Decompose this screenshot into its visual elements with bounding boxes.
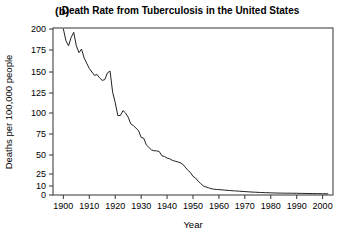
y-tick-label: 125 (31, 88, 46, 98)
y-axis-ticks: 010255075100125150175200 (31, 24, 53, 200)
x-tick-label: 1990 (287, 201, 307, 211)
x-tick-label: 2000 (313, 201, 333, 211)
y-tick-label: 150 (31, 67, 46, 77)
tuberculosis-death-rate-line-chart: 010255075100125150175200 190019101920193… (0, 0, 343, 240)
y-axis-title: Deaths per 100,000 people (3, 55, 14, 170)
x-tick-label: 1930 (131, 201, 151, 211)
x-tick-label: 1940 (157, 201, 177, 211)
plot-frame (53, 28, 333, 195)
x-tick-label: 1900 (53, 201, 73, 211)
y-tick-label: 175 (31, 45, 46, 55)
data-series-line (63, 29, 327, 194)
x-tick-label: 1960 (209, 201, 229, 211)
y-tick-label: 0 (41, 190, 46, 200)
figure-panel: (b) Death Rate from Tuberculosis in the … (0, 0, 343, 240)
x-axis-title: Year (183, 219, 202, 230)
y-tick-label: 25 (36, 169, 46, 179)
x-axis-ticks: 1900191019201930194019501960197019801990… (53, 195, 332, 211)
x-tick-label: 1970 (235, 201, 255, 211)
x-tick-label: 1950 (183, 201, 203, 211)
x-tick-label: 1920 (105, 201, 125, 211)
y-tick-label: 10 (36, 181, 46, 191)
y-tick-label: 200 (31, 24, 46, 34)
y-tick-label: 100 (31, 108, 46, 118)
x-tick-label: 1910 (79, 201, 99, 211)
y-tick-label: 50 (36, 150, 46, 160)
y-tick-label: 75 (36, 129, 46, 139)
x-tick-label: 1980 (261, 201, 281, 211)
